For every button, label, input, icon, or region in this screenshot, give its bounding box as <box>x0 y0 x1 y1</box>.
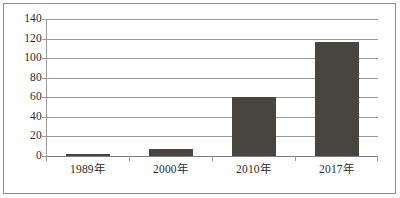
bar-series <box>46 19 378 156</box>
x-axis-labels: 1989年 2000年 2010年 2017年 <box>46 163 378 183</box>
y-tick-label: 80 <box>0 72 42 84</box>
chart-figure: 140 120 100 80 60 40 20 0 <box>0 0 400 198</box>
x-tick-mark <box>295 156 296 161</box>
y-tick-label: 20 <box>0 131 42 143</box>
x-tick-label-2000: 2000年 <box>153 163 188 177</box>
y-tick-label: 120 <box>0 33 42 45</box>
x-tick-mark <box>212 156 213 161</box>
x-tick-label-1989: 1989年 <box>70 163 105 177</box>
bar-2000 <box>149 149 193 156</box>
x-tick-label-2010: 2010年 <box>236 163 271 177</box>
y-tick-label: 40 <box>0 111 42 123</box>
plot-area <box>46 19 378 156</box>
y-tick-label: 100 <box>0 52 42 64</box>
x-tick-mark <box>46 156 47 161</box>
y-tick-label: 140 <box>0 13 42 25</box>
x-axis-ticks <box>46 156 378 161</box>
y-axis-labels: 140 120 100 80 60 40 20 0 <box>0 0 42 198</box>
y-tick-label: 0 <box>0 150 42 162</box>
bar-2010 <box>232 97 276 156</box>
y-tick-label: 60 <box>0 92 42 104</box>
x-tick-label-2017: 2017年 <box>319 163 354 177</box>
bar-2017 <box>315 42 359 156</box>
x-tick-mark <box>129 156 130 161</box>
x-tick-mark <box>377 156 378 161</box>
